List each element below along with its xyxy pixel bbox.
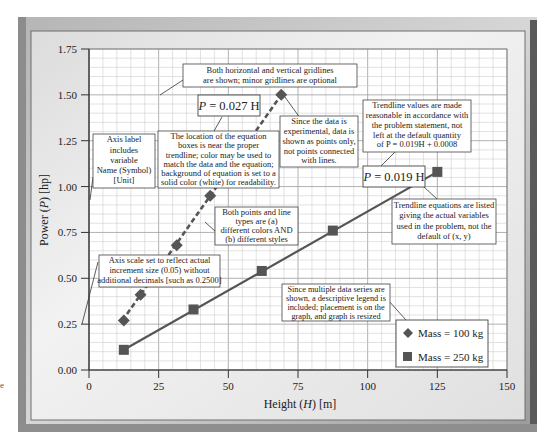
y-tick-label: 0.75	[58, 226, 78, 238]
margin-mark: e	[0, 380, 4, 390]
svg-text:Both horizontal and vertical g: Both horizontal and vertical gridlines	[207, 65, 334, 75]
svg-text:used in the problem, not the: used in the problem, not the	[397, 221, 492, 231]
svg-text:Trendline equations are listed: Trendline equations are listed	[394, 200, 495, 210]
note-legend: Since multiple data series areshown, a d…	[282, 284, 390, 321]
note-trendline-values: Trendline values are madereasonable in a…	[363, 100, 471, 152]
x-tick-label: 50	[223, 380, 235, 392]
x-tick-label: 0	[86, 380, 92, 392]
legend-label-100kg: Mass = 100 kg	[418, 327, 484, 339]
svg-text:default of (x, y): default of (x, y)	[417, 231, 471, 241]
svg-text:Since the data is: Since the data is	[291, 116, 346, 126]
note-axis-scale: Axis scale set to reflect actualincremen…	[97, 255, 222, 287]
svg-text:Trendline values are made: Trendline values are made	[372, 100, 462, 110]
y-tick-label: 0.25	[58, 318, 78, 330]
note-point-styles: Both points and linetypes are (a)differe…	[215, 207, 298, 245]
legend-label-250kg: Mass = 250 kg	[418, 351, 484, 363]
svg-text:P = 0.027 H: P = 0.027 H	[197, 99, 259, 113]
x-tick-label: 125	[429, 380, 446, 392]
svg-text:with lines.: with lines.	[301, 155, 336, 165]
x-tick-label: 25	[153, 380, 165, 392]
data-point-square	[119, 345, 129, 355]
x-tick-label: 75	[293, 380, 305, 392]
legend-square-icon	[403, 352, 412, 361]
svg-text:included; placement is on the: included; placement is on the	[287, 303, 385, 312]
svg-text:not points connected: not points connected	[284, 146, 355, 156]
svg-text:[Unit]: [Unit]	[114, 175, 135, 185]
x-axis-label: Height (H) [m]	[264, 397, 337, 411]
svg-text:shown, a descriptive legend is: shown, a descriptive legend is	[286, 294, 386, 303]
note-equation-location: The location of the equationboxes is nea…	[158, 131, 279, 188]
legend: Mass = 100 kgMass = 250 kg	[396, 320, 488, 367]
svg-text:reasonable in accordance with: reasonable in accordance with	[366, 110, 469, 120]
equation-box-100kg: P = 0.027 H	[197, 95, 260, 116]
data-point-square	[257, 266, 267, 276]
x-tick-label: 150	[499, 380, 516, 392]
y-tick-label: 0.50	[58, 272, 78, 284]
note-axis-label: Axis labelincludesvariableName (Symbol)[…	[93, 134, 155, 188]
svg-text:Axis label: Axis label	[107, 134, 142, 144]
y-tick-label: 1.75	[58, 43, 78, 55]
svg-text:graph, and graph is resized: graph, and graph is resized	[291, 312, 381, 321]
x-tick-label: 100	[359, 380, 376, 392]
note-experimental: Since the data isexperimental, data issh…	[280, 116, 358, 167]
svg-text:are shown; minor gridlines are: are shown; minor gridlines are optional	[203, 75, 337, 85]
data-point-square	[432, 167, 442, 177]
note-gridlines: Both horizontal and vertical gridlinesar…	[183, 64, 357, 87]
y-tick-label: 1.50	[58, 89, 78, 101]
svg-text:increment size (0.05) without: increment size (0.05) without	[109, 265, 210, 275]
equation-box-250kg: P = 0.019 H	[362, 166, 425, 187]
svg-text:experimental, data is: experimental, data is	[284, 126, 355, 136]
svg-text:solid color (white) for readab: solid color (white) for readability.	[161, 177, 276, 187]
data-point-square	[189, 304, 199, 314]
y-tick-label: 1.00	[58, 181, 78, 193]
chart-figure: 0.000.250.500.751.001.251.501.7502550751…	[0, 0, 547, 445]
svg-text:the problem statement, not: the problem statement, not	[372, 120, 463, 130]
y-axis-label: Power (P) [hp]	[37, 174, 51, 246]
svg-text:Since multiple data series are: Since multiple data series are	[287, 285, 385, 294]
svg-text:left at the default quantity: left at the default quantity	[373, 130, 462, 140]
svg-text:giving the actual variables: giving the actual variables	[399, 210, 488, 220]
svg-text:shown as points only,: shown as points only,	[282, 136, 355, 146]
note-trendline-equations: Trendline equations are listedgiving the…	[392, 199, 496, 244]
svg-text:variable: variable	[110, 155, 138, 165]
y-tick-label: 1.25	[58, 135, 78, 147]
y-tick-label: 0.00	[58, 364, 78, 376]
svg-text:additional decimals [such as 0: additional decimals [such as 0.2500]	[97, 275, 222, 285]
svg-text:of P = 0.019H + 0.0008: of P = 0.019H + 0.0008	[377, 139, 457, 149]
svg-text:(b) different styles: (b) different styles	[225, 234, 288, 244]
data-point-square	[328, 226, 338, 236]
chart-svg: 0.000.250.500.751.001.251.501.7502550751…	[0, 0, 547, 445]
svg-text:P = 0.019 H: P = 0.019 H	[362, 170, 424, 184]
svg-text:includes: includes	[110, 145, 138, 155]
svg-text:Name (Symbol): Name (Symbol)	[97, 165, 152, 175]
svg-text:Axis scale set to reflect actu: Axis scale set to reflect actual	[109, 255, 211, 265]
